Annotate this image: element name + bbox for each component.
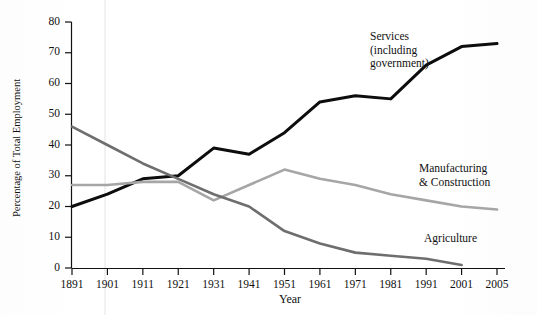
- y-tick-label: 60: [49, 76, 61, 88]
- x-tick-label: 1961: [308, 278, 331, 290]
- x-tick-label: 2005: [486, 278, 509, 290]
- annotation-manufacturing: Manufacturing& Construction: [419, 162, 490, 188]
- agriculture-label-line-1: Agriculture: [424, 232, 477, 245]
- services-label-line-3: government): [370, 57, 429, 70]
- y-tick-label: 70: [49, 45, 61, 57]
- x-tick-label: 1971: [344, 278, 367, 290]
- y-axis-title: Percentage of Total Employment: [11, 79, 22, 217]
- x-tick-label: 1891: [61, 278, 84, 290]
- y-tick-label: 0: [54, 261, 60, 273]
- annotation-services: Services(includinggovernment): [370, 30, 429, 70]
- services-label-line-2: (including: [370, 44, 418, 57]
- x-tick-label: 1981: [379, 278, 402, 290]
- chart-container: 01020304050607080 1891190119111921193119…: [0, 0, 537, 315]
- x-tick-label: 2001: [450, 278, 473, 290]
- y-tick-label: 80: [49, 15, 61, 27]
- manufacturing-label-line-1: Manufacturing: [419, 162, 488, 175]
- y-tick-label: 40: [49, 138, 61, 150]
- y-tick-label: 10: [49, 230, 61, 242]
- x-axis-title: Year: [279, 292, 301, 306]
- services-label-line-1: Services: [370, 30, 409, 42]
- x-tick-label: 1901: [96, 278, 119, 290]
- y-tick-label: 50: [49, 107, 61, 119]
- manufacturing-label-line-2: & Construction: [419, 176, 490, 188]
- y-tick-label: 20: [49, 199, 61, 211]
- x-tick-label: 1921: [167, 278, 190, 290]
- y-axis-ticks: 01020304050607080: [49, 15, 72, 273]
- y-tick-label: 30: [49, 168, 61, 180]
- x-tick-label: 1951: [273, 278, 296, 290]
- line-chart: 01020304050607080 1891190119111921193119…: [0, 0, 537, 315]
- x-tick-label: 1991: [415, 278, 438, 290]
- annotation-agriculture: Agriculture: [424, 232, 477, 245]
- x-tick-label: 1941: [238, 278, 261, 290]
- x-tick-label: 1931: [202, 278, 225, 290]
- x-axis-ticks: 1891190119111921193119411951196119711981…: [61, 269, 509, 291]
- x-tick-label: 1911: [132, 278, 155, 290]
